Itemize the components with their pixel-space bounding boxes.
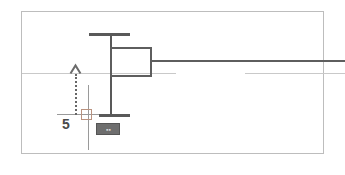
grip-handle[interactable] [81,109,92,120]
dimension-value[interactable]: 5 [62,117,70,131]
dimension-badge-label: ▪▪ [106,126,111,133]
lead-line-right[interactable] [152,60,345,62]
guide-line-right [245,73,345,74]
dimension-badge[interactable]: ▪▪ [96,123,120,135]
guide-line-base [57,114,101,115]
canvas-frame [21,11,324,154]
dotted-dimension-line [75,74,77,115]
drawing-canvas: 5 ▪▪ [0,0,345,175]
up-arrow-head-icon [69,63,82,76]
horizontal-bar-bottom[interactable] [99,114,130,117]
rectangle-outline[interactable] [110,47,152,77]
guide-line-left [22,73,176,74]
